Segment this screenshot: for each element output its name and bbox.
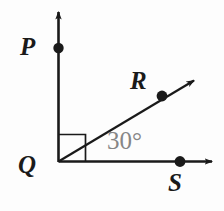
- point-dot-S: [175, 156, 186, 167]
- point-label-R: R: [130, 68, 147, 93]
- geometry-figure: P Q R S 30°: [0, 0, 224, 211]
- point-label-P: P: [20, 34, 35, 59]
- point-dot-R: [157, 91, 168, 102]
- angle-measure-label: 30°: [107, 128, 142, 153]
- point-dot-P: [53, 43, 63, 53]
- point-label-S: S: [168, 170, 182, 195]
- point-label-Q: Q: [18, 152, 36, 177]
- figure-canvas: [0, 0, 224, 211]
